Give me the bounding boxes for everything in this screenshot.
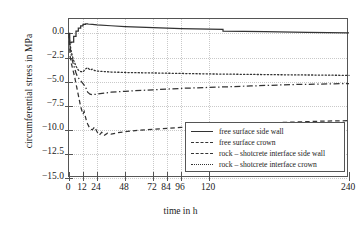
y-tick-label: −15.0: [4, 171, 64, 181]
legend-label: free surface side wall: [219, 127, 284, 137]
y-tick-label: 0.0: [4, 26, 64, 36]
legend-label: rock – shotcrete interface side wall: [219, 149, 325, 159]
y-tick-label: −12.5: [4, 146, 64, 156]
series-line-1: [69, 33, 349, 135]
x-axis-label: time in h: [0, 206, 361, 216]
y-tick-label: −2.5: [4, 50, 64, 60]
x-tick-label: 0: [66, 182, 71, 192]
series-line-3: [69, 33, 349, 75]
x-tick-label: 24: [91, 182, 101, 192]
legend-symbol-solid-icon: [190, 127, 214, 137]
legend-item-1: free surface crown: [190, 137, 340, 148]
legend-item-0: free surface side wall: [190, 126, 340, 137]
legend-item-2: rock – shotcrete interface side wall: [190, 148, 340, 159]
x-tick-label: 96: [175, 182, 185, 192]
y-tick-label: −5.0: [4, 74, 64, 84]
series-line-2: [69, 33, 349, 94]
legend-item-3: rock – shotcrete interface crown: [190, 159, 340, 170]
y-tick-label: −7.5: [4, 98, 64, 108]
series-line-0: [69, 24, 349, 43]
legend-label: free surface crown: [219, 138, 276, 148]
chart-legend: free surface side wall free surface crow…: [185, 122, 345, 172]
legend-label: rock – shotcrete interface crown: [219, 160, 317, 170]
x-tick-label: 12: [77, 182, 87, 192]
x-tick-label: 48: [119, 182, 129, 192]
x-axis-tick: [349, 176, 350, 181]
x-axis-tick: [349, 172, 350, 176]
x-tick-label: 120: [201, 182, 215, 192]
y-tick-label: −10.0: [4, 122, 64, 132]
legend-symbol-dotted-icon: [190, 160, 214, 170]
grid-line-horizontal: [69, 178, 347, 179]
x-tick-label: 84: [161, 182, 171, 192]
x-tick-label: 72: [147, 182, 157, 192]
y-axis-tick: [69, 178, 73, 179]
chart-figure: circumferential stress in MPa time in h …: [0, 0, 361, 226]
x-tick-label: 240: [341, 182, 355, 192]
legend-symbol-dashdot-icon: [190, 149, 214, 159]
legend-symbol-dashed-icon: [190, 138, 214, 148]
